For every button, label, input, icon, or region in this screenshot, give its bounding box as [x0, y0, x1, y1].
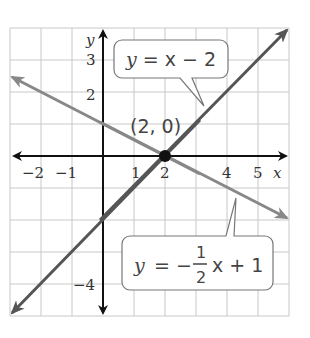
- svg-text:2: 2: [196, 268, 206, 287]
- svg-text:2: 2: [86, 86, 96, 104]
- svg-text:2: 2: [160, 164, 170, 182]
- svg-text:1: 1: [196, 243, 206, 262]
- svg-text:−1: −1: [55, 164, 77, 182]
- svg-text:= −: = −: [154, 254, 192, 276]
- svg-text:−4: −4: [73, 276, 95, 294]
- svg-text:5: 5: [253, 164, 263, 182]
- svg-text:y: y: [85, 31, 95, 49]
- svg-text:x + 1: x + 1: [212, 254, 263, 276]
- svg-text:4: 4: [222, 164, 232, 182]
- svg-text:3: 3: [86, 51, 96, 69]
- svg-text:−2: −2: [22, 164, 44, 182]
- svg-text:x: x: [273, 164, 282, 182]
- svg-text:1: 1: [131, 164, 141, 182]
- graph: y= x − 2 y = − 1 2 x + 1 (2, 0) −2 −1 1 …: [0, 0, 310, 338]
- svg-text:y: y: [133, 254, 145, 276]
- intersection-point: [159, 150, 171, 162]
- point-label: (2, 0): [130, 115, 181, 137]
